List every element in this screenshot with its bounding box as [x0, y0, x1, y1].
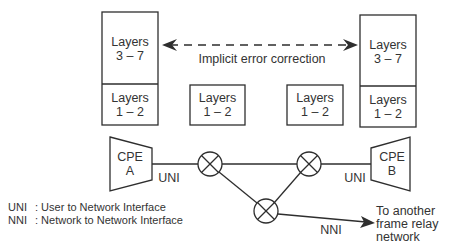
legend-abbr: UNI: [8, 201, 35, 214]
label-line: 1 – 2: [190, 105, 245, 119]
label-line: Layers: [360, 38, 416, 52]
label-line: 1 – 2: [287, 105, 343, 119]
legend-desc: : User to Network Interface: [35, 201, 166, 213]
label-line: 1 – 2: [360, 107, 416, 121]
link-s2-s3: [274, 172, 301, 203]
label-line: Layers: [287, 91, 343, 105]
label-line: network: [376, 231, 449, 244]
label-line: Layers: [190, 91, 245, 105]
destination-label: To another frame relay network: [376, 205, 449, 244]
switch-icon-2: [297, 152, 321, 176]
label-line: CPE: [372, 150, 412, 164]
legend-item-uni: UNI: User to Network Interface: [8, 201, 166, 214]
switch-icon-3: [254, 199, 278, 223]
nni-label: NNI: [316, 223, 346, 237]
label-line: CPE: [110, 150, 150, 164]
middle-box-1-label: Layers 1 – 2: [190, 91, 245, 119]
cpe-b-label: CPE B: [372, 150, 412, 178]
label-line: A: [110, 164, 150, 178]
label-line: 3 – 7: [360, 52, 416, 66]
cpe-a-label: CPE A: [110, 150, 150, 178]
legend-abbr: NNI: [8, 214, 35, 227]
middle-box-2-label: Layers 1 – 2: [287, 91, 343, 119]
label-line: B: [372, 164, 412, 178]
right-stack-upper-label: Layers 3 – 7: [360, 38, 416, 66]
right-stack-lower-label: Layers 1 – 2: [360, 93, 416, 121]
left-stack-lower-label: Layers 1 – 2: [102, 91, 158, 119]
label-line: Layers: [360, 93, 416, 107]
legend-item-nni: NNI: Network to Network Interface: [8, 214, 183, 227]
label-line: 1 – 2: [102, 105, 158, 119]
legend-desc: : Network to Network Interface: [35, 214, 183, 226]
switch-icon-1: [198, 152, 222, 176]
left-stack-upper-label: Layers 3 – 7: [102, 35, 158, 63]
link-s1-s3: [219, 172, 257, 203]
link-s3-nni: [278, 214, 366, 222]
label-line: Layers: [102, 91, 158, 105]
label-line: Layers: [102, 35, 158, 49]
implicit-error-correction-label: Implicit error correction: [180, 52, 344, 66]
uni-left-label: UNI: [154, 171, 184, 185]
uni-right-label: UNI: [340, 171, 370, 185]
label-line: 3 – 7: [102, 49, 158, 63]
